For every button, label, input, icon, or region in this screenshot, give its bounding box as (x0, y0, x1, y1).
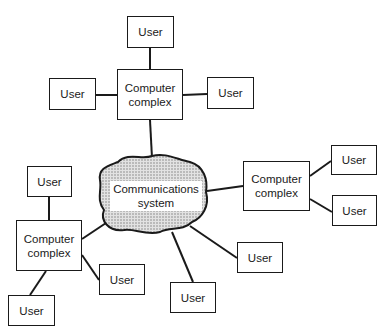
complex-label-line2: complex (24, 246, 75, 260)
user-box: User (237, 242, 283, 273)
computer-complex-top: Computercomplex (117, 69, 183, 120)
complex-label-line1: Computer (24, 232, 75, 246)
user-box: User (207, 77, 254, 109)
user-box: User (331, 145, 377, 175)
center-label-line2: system (112, 196, 200, 210)
user-box: User (127, 16, 174, 48)
user-box: User (332, 195, 377, 226)
computer-complex-right: Computercomplex (243, 161, 310, 211)
computer-complex-left: Computercomplex (16, 220, 82, 271)
center-label-line1: Communications (112, 182, 200, 196)
user-box: User (49, 78, 96, 110)
communications-system-label: Communications system (110, 181, 202, 211)
user-box: User (27, 166, 72, 197)
user-box: User (99, 264, 145, 295)
user-box: User (170, 282, 216, 313)
complex-label-line2: complex (251, 186, 302, 200)
network-diagram: Communications system Computercomplex Co… (0, 0, 386, 331)
complex-label-line1: Computer (125, 81, 176, 95)
user-box: User (8, 295, 55, 326)
complex-label-line2: complex (125, 95, 176, 109)
complex-label-line1: Computer (251, 172, 302, 186)
